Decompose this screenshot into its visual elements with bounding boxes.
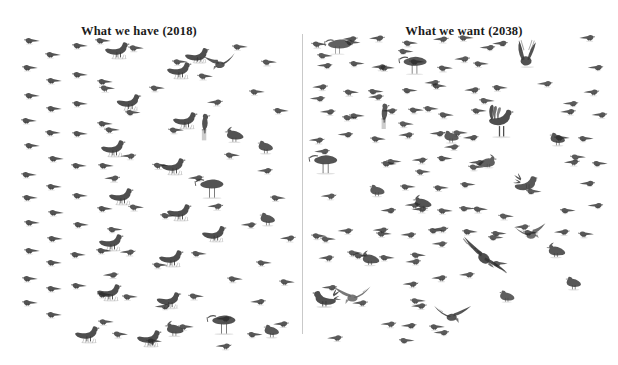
small-bird-icon: [400, 230, 417, 239]
flock-right: [302, 34, 618, 360]
small-bird-icon: [23, 36, 40, 45]
grouse-icon: [104, 40, 134, 64]
small-bird-icon: [21, 193, 38, 202]
small-bird-icon: [248, 87, 265, 96]
small-bird-icon: [187, 291, 206, 301]
flock-left: [0, 34, 302, 360]
small-bird-icon: [379, 319, 397, 329]
small-bird-icon: [370, 62, 388, 72]
curlew-icon: [194, 174, 236, 202]
small-bird-icon: [401, 279, 419, 289]
small-bird-icon: [102, 270, 120, 279]
small-bird-icon: [409, 296, 426, 305]
small-bird-icon: [45, 182, 62, 191]
small-bird-icon: [326, 333, 344, 342]
gull-icon: [515, 222, 548, 244]
bird-comparison-figure: What we have (2018) What we want (2038): [0, 0, 618, 365]
small-bird-icon: [367, 33, 386, 43]
small-bird-icon: [71, 191, 88, 200]
small-bird-icon: [307, 135, 326, 145]
small-bird-icon: [45, 104, 62, 113]
small-bird-icon: [98, 83, 117, 93]
small-bird-icon: [381, 206, 397, 214]
plover-icon: [548, 130, 569, 148]
small-bird-icon: [72, 220, 89, 229]
small-bird-icon: [338, 130, 354, 139]
small-bird-icon: [45, 76, 62, 85]
small-bird-icon: [214, 341, 233, 351]
small-bird-icon: [319, 234, 337, 244]
small-bird-icon: [459, 180, 475, 189]
small-bird-icon: [591, 110, 608, 119]
small-bird-icon: [430, 273, 448, 283]
small-bird-icon: [23, 141, 40, 150]
lapwing-icon: [478, 154, 497, 170]
small-bird-icon: [401, 86, 417, 94]
small-bird-icon: [337, 226, 354, 235]
small-bird-icon: [432, 183, 450, 192]
small-bird-icon: [20, 170, 37, 179]
small-bird-icon: [255, 258, 272, 267]
eagle-icon: [452, 234, 515, 279]
small-bird-icon: [434, 328, 450, 337]
small-bird-icon: [453, 54, 471, 64]
small-bird-icon: [190, 249, 207, 258]
small-bird-icon: [431, 239, 448, 248]
small-bird-icon: [397, 130, 415, 140]
small-bird-icon: [47, 208, 64, 217]
small-bird-icon: [341, 113, 358, 122]
small-bird-icon: [405, 257, 422, 266]
small-bird-icon: [102, 173, 121, 183]
small-bird-icon: [319, 191, 338, 201]
panel-what-we-have: What we have (2018): [0, 0, 302, 365]
small-bird-icon: [414, 167, 431, 176]
grouse-icon: [96, 282, 126, 306]
small-bird-icon: [111, 329, 130, 339]
small-bird-icon: [431, 34, 450, 44]
small-bird-icon: [257, 166, 274, 175]
small-bird-icon: [401, 321, 418, 330]
plover-icon: [442, 128, 462, 145]
small-bird-icon: [44, 128, 61, 137]
lapwing-icon: [546, 242, 568, 260]
curlew-icon: [308, 150, 349, 177]
small-bird-icon: [410, 155, 429, 165]
small-bird-icon: [348, 59, 364, 68]
small-bird-icon: [103, 125, 120, 134]
small-bird-icon: [560, 107, 577, 116]
small-bird-icon: [71, 129, 88, 138]
grouse-icon: [108, 186, 138, 210]
grouse-icon: [136, 328, 166, 352]
small-bird-icon: [472, 59, 490, 68]
small-bird-icon: [491, 83, 508, 92]
small-bird-icon: [278, 277, 296, 287]
small-bird-icon: [246, 330, 262, 339]
small-bird-icon: [436, 206, 453, 215]
curlew-icon: [398, 52, 437, 78]
grouse-icon: [100, 138, 130, 162]
small-bird-icon: [436, 63, 455, 73]
small-bird-icon: [272, 106, 289, 115]
plover-icon: [258, 210, 279, 228]
grouse-icon: [74, 324, 104, 348]
small-bird-icon: [20, 116, 37, 125]
small-bird-icon: [369, 134, 387, 144]
small-bird-icon: [21, 298, 38, 307]
small-bird-icon: [319, 107, 337, 116]
grouse-icon: [116, 92, 145, 116]
harrier-icon: [434, 306, 471, 326]
small-bird-icon: [422, 104, 439, 113]
small-bird-icon: [577, 134, 593, 143]
lapwing-icon: [164, 320, 187, 339]
small-bird-icon: [582, 87, 600, 97]
small-bird-icon: [23, 218, 40, 227]
grouse-icon: [160, 156, 190, 180]
grouse-icon: [202, 224, 231, 247]
small-bird-icon: [223, 150, 242, 160]
lapwing-icon: [360, 250, 382, 268]
small-bird-icon: [463, 85, 481, 95]
small-bird-icon: [70, 281, 87, 290]
small-bird-icon: [23, 246, 40, 255]
small-bird-icon: [23, 91, 40, 100]
small-bird-icon: [71, 70, 88, 79]
